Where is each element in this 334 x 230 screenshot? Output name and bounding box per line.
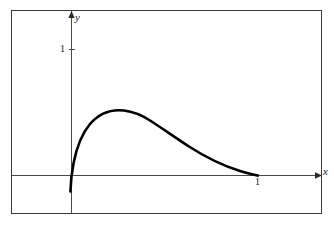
y-axis-arrowhead (68, 11, 74, 18)
chart-svg (0, 0, 334, 230)
figure-container: y x 1 1 (0, 0, 334, 230)
y-tick-label-1: 1 (60, 44, 65, 54)
x-axis-arrowhead (315, 172, 322, 178)
curve-path (70, 110, 258, 191)
x-axis-label: x (323, 166, 328, 177)
x-tick-label-1: 1 (255, 177, 260, 187)
x-axis (12, 172, 322, 178)
y-axis-label: y (75, 12, 80, 23)
